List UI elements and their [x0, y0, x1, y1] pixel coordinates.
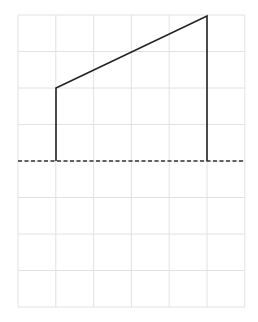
grid-diagram: [0, 0, 258, 322]
